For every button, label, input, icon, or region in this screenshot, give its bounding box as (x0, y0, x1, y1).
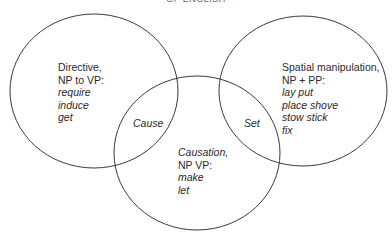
overlap-label-cause: Cause (133, 117, 163, 129)
label-spatial: Spatial manipulation, NP + PP: lay put p… (282, 61, 379, 137)
overlap-label-set: Set (244, 117, 260, 129)
directive-verb: require (58, 86, 104, 99)
directive-heading-1: Directive, (58, 61, 104, 74)
causation-heading-1: Causation, (178, 146, 228, 159)
causation-heading-2: NP VP: (178, 159, 228, 172)
directive-verb: induce (58, 99, 104, 112)
spatial-heading-1: Spatial manipulation, (282, 61, 379, 74)
spatial-verb: place shove (282, 99, 379, 112)
spatial-verb: fix (282, 124, 379, 137)
spatial-verb: lay put (282, 86, 379, 99)
directive-heading-2: NP to VP: (58, 74, 104, 87)
causation-verb: let (178, 184, 228, 197)
directive-verb: get (58, 111, 104, 124)
label-directive: Directive, NP to VP: require induce get (58, 61, 104, 124)
causation-verb: make (178, 171, 228, 184)
label-causation: Causation, NP VP: make let (178, 146, 228, 196)
spatial-verb: stow stick (282, 111, 379, 124)
spatial-heading-2: NP + PP: (282, 74, 379, 87)
